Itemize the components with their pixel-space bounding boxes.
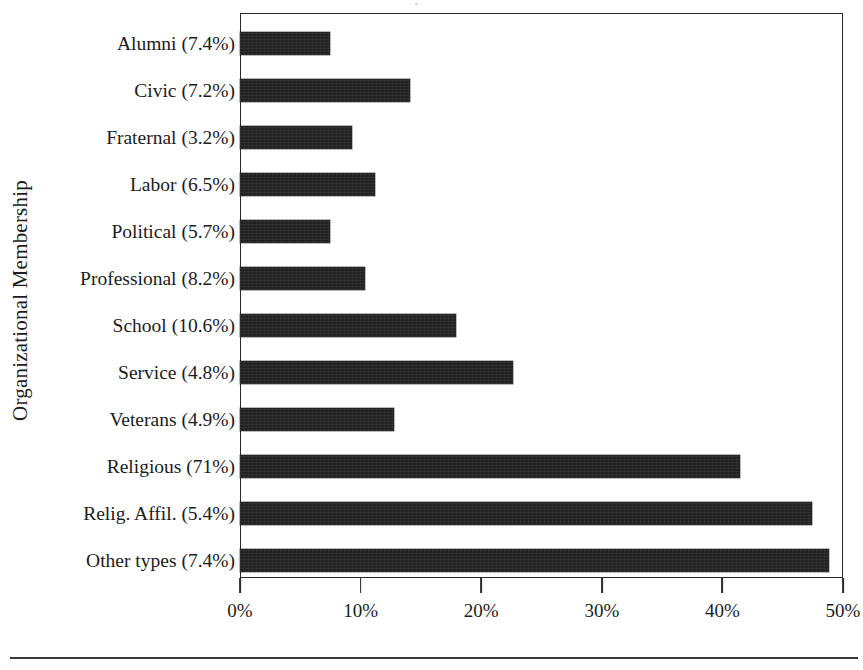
category-label: Other types (7.4%) <box>40 537 235 584</box>
category-label: Fraternal (3.2%) <box>40 114 235 161</box>
bar-row <box>240 302 843 349</box>
bar-row <box>240 161 843 208</box>
x-axis-tick <box>239 578 241 593</box>
bar-row <box>240 537 843 584</box>
category-label: Political (5.7%) <box>40 208 235 255</box>
bar <box>240 126 352 149</box>
bottom-rule <box>10 657 858 659</box>
x-axis-ticks <box>240 578 843 594</box>
x-axis-tick-label: 30% <box>584 600 619 622</box>
x-axis-tick-label: 0% <box>227 600 252 622</box>
cropped-caption-artifact: · <box>414 0 428 7</box>
bar <box>240 32 330 55</box>
bar-row <box>240 443 843 490</box>
category-label: Alumni (7.4%) <box>40 20 235 67</box>
bars-layer <box>240 13 843 578</box>
x-axis-tick <box>842 578 844 593</box>
y-axis-title: Organizational Membership <box>0 0 40 600</box>
category-label: Veterans (4.9%) <box>40 396 235 443</box>
x-axis-tick-label: 50% <box>826 600 861 622</box>
y-axis-category-labels: Alumni (7.4%)Civic (7.2%)Fraternal (3.2%… <box>40 13 235 578</box>
category-label: Service (4.8%) <box>40 349 235 396</box>
bar-row <box>240 208 843 255</box>
x-axis-tick-label: 20% <box>464 600 499 622</box>
bar <box>240 361 513 384</box>
x-axis-tick <box>480 578 482 593</box>
bar-row <box>240 20 843 67</box>
bar <box>240 267 365 290</box>
category-label: Relig. Affil. (5.4%) <box>40 490 235 537</box>
bar-row <box>240 490 843 537</box>
bar <box>240 220 330 243</box>
x-axis-tick <box>721 578 723 593</box>
bar <box>240 549 829 572</box>
category-label: Professional (8.2%) <box>40 255 235 302</box>
x-axis-tick-label: 10% <box>343 600 378 622</box>
y-axis-title-text: Organizational Membership <box>8 180 33 421</box>
bar-row <box>240 67 843 114</box>
bar-chart-figure: · Organizational Membership Alumni (7.4%… <box>0 0 863 670</box>
category-label: Labor (6.5%) <box>40 161 235 208</box>
bar <box>240 502 812 525</box>
bar-row <box>240 396 843 443</box>
x-axis-tick-label: 40% <box>705 600 740 622</box>
x-axis-tick <box>601 578 603 593</box>
bar <box>240 173 375 196</box>
bar <box>240 79 410 102</box>
category-label: School (10.6%) <box>40 302 235 349</box>
category-label: Civic (7.2%) <box>40 67 235 114</box>
bar-row <box>240 114 843 161</box>
category-label: Religious (71%) <box>40 443 235 490</box>
bar <box>240 455 740 478</box>
bar-row <box>240 255 843 302</box>
x-axis-tick-labels: 0%10%20%30%40%50% <box>240 600 843 628</box>
bar <box>240 314 456 337</box>
bar <box>240 408 394 431</box>
x-axis-tick <box>360 578 362 593</box>
bar-row <box>240 349 843 396</box>
